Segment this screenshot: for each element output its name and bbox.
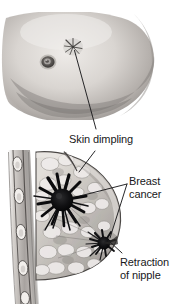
label-breast-cancer-line-1: Breast	[129, 175, 160, 187]
label-breast-cancer-line-2: cancer	[129, 188, 161, 200]
label-retraction-line-2: of nipple	[120, 269, 161, 281]
chest-wall-ribs	[8, 150, 39, 304]
label-retraction-line-1: Retraction	[120, 256, 169, 268]
label-retraction-of-nipple: Retractionof nipple	[120, 256, 169, 281]
breast-cancer-illustration: Skin dimpling Breastcancer Retractionof …	[0, 0, 179, 304]
breast-cross-section	[8, 150, 121, 304]
nipple-areola	[40, 55, 57, 70]
breast-tissue-body	[35, 152, 121, 281]
label-skin-dimpling: Skin dimpling	[69, 133, 133, 146]
external-breast-photograph	[0, 0, 179, 152]
label-breast-cancer: Breastcancer	[129, 175, 161, 200]
